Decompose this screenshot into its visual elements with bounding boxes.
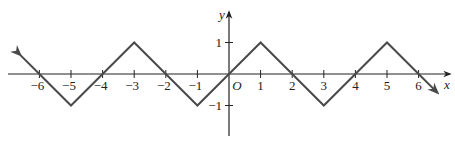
axis-labels: −6−5−4−3−2−11234561−1xyO bbox=[30, 7, 450, 113]
x-tick-label: −4 bbox=[94, 78, 108, 93]
x-tick-label: −5 bbox=[62, 78, 76, 93]
x-tick-label: 3 bbox=[321, 78, 328, 93]
y-tick-label: −1 bbox=[208, 98, 222, 113]
x-tick-label: 1 bbox=[257, 78, 264, 93]
y-axis-label: y bbox=[217, 7, 225, 22]
x-tick-label: −3 bbox=[125, 78, 139, 93]
x-tick-label: 2 bbox=[289, 78, 296, 93]
origin-label: O bbox=[232, 78, 242, 93]
x-tick-label: 5 bbox=[384, 78, 391, 93]
x-tick-label: −6 bbox=[30, 78, 44, 93]
y-tick-label: 1 bbox=[216, 35, 223, 50]
x-tick-label: −1 bbox=[188, 78, 202, 93]
x-tick-label: 4 bbox=[352, 78, 359, 93]
triangle-wave-chart: −6−5−4−3−2−11234561−1xyO bbox=[0, 0, 455, 141]
x-axis-label: x bbox=[443, 77, 450, 92]
x-tick-label: 6 bbox=[415, 78, 422, 93]
x-tick-label: −2 bbox=[157, 78, 171, 93]
